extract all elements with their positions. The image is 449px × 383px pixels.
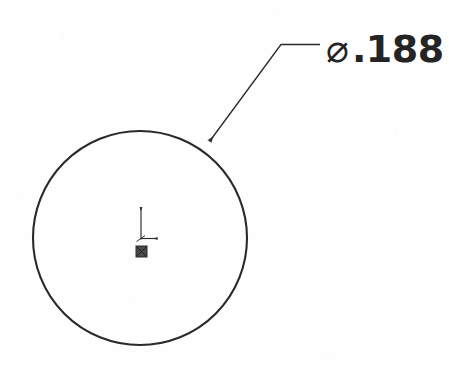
drawing-sheet: ⌀.188	[0, 0, 449, 383]
leader-line[interactable]	[210, 45, 321, 142]
origin-axis-marker[interactable]	[136, 207, 158, 257]
dimension-value-text: .188	[352, 27, 444, 71]
hole-circle[interactable]	[33, 131, 247, 345]
diameter-dimension-callout[interactable]: ⌀.188	[326, 30, 444, 68]
diameter-symbol-icon: ⌀	[326, 27, 349, 71]
